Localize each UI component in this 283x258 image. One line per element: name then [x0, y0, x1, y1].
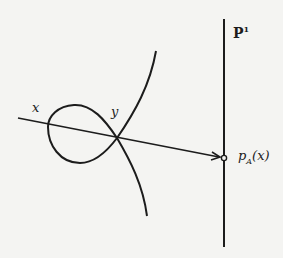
label-P1: P1 — [233, 24, 249, 41]
label-y: y — [111, 104, 118, 119]
label-p-arg: (x) — [252, 148, 269, 163]
projection-line — [18, 118, 219, 157]
diagram-canvas: x y P1 pA(x) — [0, 0, 283, 258]
projected-point-icon — [221, 155, 226, 160]
label-x: x — [32, 100, 39, 115]
label-P-sup: 1 — [244, 24, 250, 34]
label-projection: pA(x) — [238, 148, 270, 166]
curve-loop — [48, 105, 117, 163]
label-P: P — [233, 25, 244, 41]
curve-branch — [117, 51, 156, 216]
